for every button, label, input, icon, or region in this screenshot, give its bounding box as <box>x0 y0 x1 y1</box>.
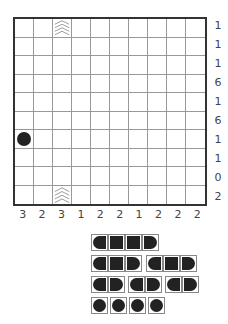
grid-cell[interactable] <box>186 56 205 75</box>
grid-cell[interactable] <box>15 167 34 186</box>
grid-cell[interactable] <box>110 112 129 131</box>
grid-cell[interactable] <box>148 186 167 205</box>
grid-cell[interactable] <box>53 186 72 205</box>
grid-cell[interactable] <box>148 112 167 131</box>
grid-cell[interactable] <box>91 130 110 149</box>
grid-cell[interactable] <box>129 130 148 149</box>
grid-cell[interactable] <box>53 167 72 186</box>
grid-cell[interactable] <box>186 130 205 149</box>
grid-cell[interactable] <box>72 75 91 94</box>
grid-cell[interactable] <box>15 75 34 94</box>
grid-cell[interactable] <box>15 186 34 205</box>
grid-cell[interactable] <box>167 19 186 38</box>
grid-cell[interactable] <box>110 19 129 38</box>
grid-cell[interactable] <box>148 38 167 57</box>
grid-cell[interactable] <box>91 149 110 168</box>
grid-cell[interactable] <box>129 93 148 112</box>
grid-cell[interactable] <box>129 167 148 186</box>
grid-cell[interactable] <box>53 93 72 112</box>
grid-cell[interactable] <box>148 167 167 186</box>
grid-cell[interactable] <box>34 56 53 75</box>
grid-cell[interactable] <box>91 56 110 75</box>
grid-cell[interactable] <box>167 75 186 94</box>
grid-cell[interactable] <box>34 149 53 168</box>
grid-cell[interactable] <box>110 167 129 186</box>
grid-cell[interactable] <box>186 149 205 168</box>
grid-cell[interactable] <box>34 93 53 112</box>
grid-cell[interactable] <box>186 186 205 205</box>
grid-cell[interactable] <box>186 19 205 38</box>
grid-cell[interactable] <box>167 186 186 205</box>
grid-cell[interactable] <box>148 130 167 149</box>
grid-cell[interactable] <box>110 56 129 75</box>
grid-cell[interactable] <box>129 38 148 57</box>
grid-cell[interactable] <box>53 149 72 168</box>
grid-cell[interactable] <box>91 186 110 205</box>
grid-cell[interactable] <box>53 112 72 131</box>
grid-cell[interactable] <box>148 149 167 168</box>
grid-cell[interactable] <box>34 186 53 205</box>
grid-cell[interactable] <box>72 93 91 112</box>
grid-cell[interactable] <box>72 130 91 149</box>
grid-cell[interactable] <box>91 75 110 94</box>
grid-cell[interactable] <box>110 130 129 149</box>
grid-cell[interactable] <box>34 112 53 131</box>
grid-cell[interactable] <box>91 93 110 112</box>
grid-cell[interactable] <box>167 167 186 186</box>
grid-cell[interactable] <box>15 56 34 75</box>
grid-cell[interactable] <box>53 19 72 38</box>
grid-cell[interactable] <box>129 149 148 168</box>
grid-cell[interactable] <box>15 130 34 149</box>
grid-cell[interactable] <box>72 186 91 205</box>
grid-cell[interactable] <box>167 38 186 57</box>
grid-cell[interactable] <box>72 56 91 75</box>
grid-cell[interactable] <box>129 75 148 94</box>
grid-cell[interactable] <box>34 38 53 57</box>
grid-cell[interactable] <box>110 93 129 112</box>
grid-cell[interactable] <box>91 19 110 38</box>
grid-cell[interactable] <box>186 112 205 131</box>
grid-cell[interactable] <box>110 75 129 94</box>
grid-cell[interactable] <box>129 112 148 131</box>
grid-cell[interactable] <box>148 75 167 94</box>
grid-cell[interactable] <box>72 38 91 57</box>
grid-cell[interactable] <box>53 75 72 94</box>
grid-cell[interactable] <box>91 167 110 186</box>
grid-cell[interactable] <box>167 130 186 149</box>
grid-cell[interactable] <box>91 38 110 57</box>
grid-cell[interactable] <box>167 93 186 112</box>
grid-cell[interactable] <box>53 38 72 57</box>
grid-cell[interactable] <box>34 130 53 149</box>
grid-cell[interactable] <box>148 56 167 75</box>
grid-cell[interactable] <box>15 149 34 168</box>
grid-cell[interactable] <box>15 112 34 131</box>
grid-cell[interactable] <box>186 75 205 94</box>
grid-cell[interactable] <box>129 19 148 38</box>
grid-cell[interactable] <box>34 75 53 94</box>
grid-cell[interactable] <box>91 112 110 131</box>
grid-cell[interactable] <box>167 56 186 75</box>
grid-cell[interactable] <box>53 56 72 75</box>
grid-cell[interactable] <box>53 130 72 149</box>
grid-cell[interactable] <box>129 186 148 205</box>
grid-cell[interactable] <box>110 149 129 168</box>
grid-cell[interactable] <box>167 112 186 131</box>
grid-cell[interactable] <box>148 19 167 38</box>
grid-cell[interactable] <box>72 112 91 131</box>
grid-cell[interactable] <box>72 19 91 38</box>
grid-cell[interactable] <box>148 93 167 112</box>
grid-cell[interactable] <box>15 93 34 112</box>
grid-cell[interactable] <box>72 149 91 168</box>
grid-cell[interactable] <box>110 38 129 57</box>
grid-cell[interactable] <box>186 38 205 57</box>
grid-cell[interactable] <box>110 186 129 205</box>
grid-cell[interactable] <box>186 93 205 112</box>
grid-cell[interactable] <box>186 167 205 186</box>
grid-cell[interactable] <box>129 56 148 75</box>
grid-cell[interactable] <box>15 19 34 38</box>
grid-cell[interactable] <box>34 167 53 186</box>
grid-cell[interactable] <box>167 149 186 168</box>
grid-cell[interactable] <box>15 38 34 57</box>
grid-cell[interactable] <box>72 167 91 186</box>
grid-cell[interactable] <box>34 19 53 38</box>
